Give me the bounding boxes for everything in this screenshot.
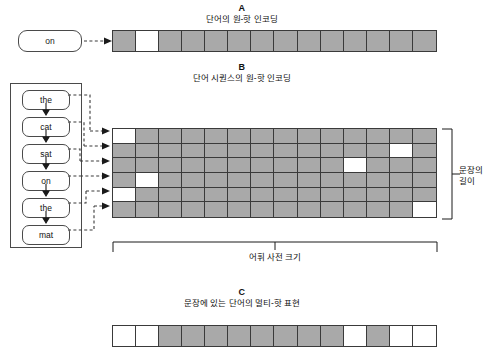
section-a-subtitle: 단어의 원-핫 인코딩 (172, 14, 312, 25)
matrix-cell (321, 158, 344, 172)
matrix-row (113, 188, 436, 203)
matrix-cell (390, 173, 413, 187)
section-b-subtitle: 단어 시퀀스의 원-핫 인코딩 (172, 73, 312, 84)
section-c-caption: C 문장에 있는 단어의 멀티-핫 표현 (172, 287, 312, 309)
matrix-cell (367, 188, 390, 202)
one-hot-vector-a (112, 30, 437, 52)
one-hot-a-cell (113, 31, 136, 51)
matrix-cell (159, 144, 182, 158)
matrix-cell (159, 173, 182, 187)
matrix-cell (274, 173, 297, 187)
matrix-cell (413, 158, 436, 172)
matrix-cell (136, 173, 159, 187)
matrix-row (113, 202, 436, 217)
matrix-cell (321, 173, 344, 187)
matrix-cell (182, 188, 205, 202)
matrix-cell (413, 202, 436, 217)
matrix-cell (228, 188, 251, 202)
matrix-cell (390, 144, 413, 158)
matrix-cell (136, 202, 159, 217)
matrix-cell (136, 158, 159, 172)
matrix-cell (113, 129, 136, 143)
matrix-cell (274, 144, 297, 158)
matrix-cell (228, 129, 251, 143)
matrix-cell (274, 129, 297, 143)
vocabulary-size-label: 어휘 사전 크기 (205, 252, 345, 263)
matrix-cell (205, 158, 228, 172)
section-a-caption: A 단어의 원-핫 인코딩 (172, 3, 312, 25)
multi-hot-c-cell (390, 326, 413, 346)
multi-hot-vector-c (112, 325, 437, 347)
matrix-cell (367, 202, 390, 217)
matrix-cell (159, 129, 182, 143)
matrix-cell (298, 144, 321, 158)
multi-hot-c-cell (205, 326, 228, 346)
matrix-cell (113, 188, 136, 202)
section-a-letter: A (172, 3, 312, 14)
multi-hot-c-cell (344, 326, 367, 346)
matrix-cell (251, 173, 274, 187)
matrix-cell (298, 173, 321, 187)
multi-hot-c-cell (413, 326, 436, 346)
matrix-cell (113, 173, 136, 187)
matrix-cell (182, 202, 205, 217)
matrix-cell (205, 188, 228, 202)
matrix-cell (413, 144, 436, 158)
multi-hot-c-cell (367, 326, 390, 346)
matrix-cell (159, 188, 182, 202)
sentence-length-label: 문장의 길이 (459, 165, 487, 187)
matrix-cell (228, 144, 251, 158)
matrix-cell (413, 173, 436, 187)
matrix-cell (228, 158, 251, 172)
word-to-matrix-connectors (66, 85, 118, 245)
multi-hot-c-cell (298, 326, 321, 346)
matrix-cell (205, 144, 228, 158)
multi-hot-c-cell (228, 326, 251, 346)
one-hot-a-cell (205, 31, 228, 51)
word-box-on[interactable]: on (18, 30, 82, 52)
matrix-cell (136, 144, 159, 158)
matrix-cell (113, 158, 136, 172)
section-b-letter: B (172, 62, 312, 73)
one-hot-matrix-b (112, 128, 437, 218)
matrix-cell (298, 129, 321, 143)
matrix-cell (182, 129, 205, 143)
matrix-row (113, 173, 436, 188)
matrix-cell (344, 158, 367, 172)
one-hot-a-cell (321, 31, 344, 51)
matrix-cell (390, 129, 413, 143)
multi-hot-c-cell (136, 326, 159, 346)
matrix-cell (321, 188, 344, 202)
matrix-cell (251, 129, 274, 143)
multi-hot-c-cell (251, 326, 274, 346)
multi-hot-c-cell (113, 326, 136, 346)
matrix-cell (321, 129, 344, 143)
word-box-on-label: on (45, 36, 54, 46)
matrix-cell (367, 158, 390, 172)
matrix-cell (274, 188, 297, 202)
one-hot-a-cell (367, 31, 390, 51)
matrix-cell (182, 173, 205, 187)
matrix-cell (298, 158, 321, 172)
matrix-cell (367, 144, 390, 158)
matrix-cell (390, 188, 413, 202)
matrix-cell (113, 144, 136, 158)
matrix-cell (205, 173, 228, 187)
matrix-cell (390, 158, 413, 172)
one-hot-a-cell (274, 31, 297, 51)
matrix-cell (113, 202, 136, 217)
multi-hot-c-cell (159, 326, 182, 346)
multi-hot-c-cell (182, 326, 205, 346)
section-c-subtitle: 문장에 있는 단어의 멀티-핫 표현 (172, 298, 312, 309)
one-hot-a-cell (413, 31, 436, 51)
one-hot-a-cell (159, 31, 182, 51)
matrix-cell (344, 144, 367, 158)
matrix-cell (344, 129, 367, 143)
section-c-letter: C (172, 287, 312, 298)
matrix-cell (136, 188, 159, 202)
matrix-cell (344, 202, 367, 217)
matrix-cell (321, 144, 344, 158)
one-hot-a-cell (390, 31, 413, 51)
matrix-cell (344, 188, 367, 202)
matrix-cell (413, 188, 436, 202)
